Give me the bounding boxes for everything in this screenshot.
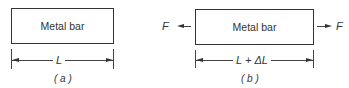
dimension-arrow-right-b-icon	[306, 58, 313, 62]
caption-a: ( a )	[54, 73, 72, 84]
force-arrow-right-icon	[325, 24, 332, 28]
dimension-label-a: L	[53, 54, 65, 66]
dimension-arrow-left-a-icon	[12, 58, 19, 62]
force-left-label: F	[162, 20, 169, 32]
dimension-label-b: L + ΔL	[233, 54, 271, 66]
dimension-arrow-right-a-icon	[106, 58, 113, 62]
metal-bar-a-label: Metal bar	[41, 20, 85, 32]
dimension-tick-right-a	[113, 49, 114, 69]
caption-b: ( b )	[241, 73, 259, 84]
metal-bar-a: Metal bar	[11, 8, 114, 44]
dimension-arrow-left-b-icon	[196, 58, 203, 62]
force-arrow-left-icon	[177, 24, 184, 28]
dimension-tick-right-b	[313, 50, 314, 68]
force-right-label: F	[336, 20, 343, 32]
metal-bar-b: Metal bar	[195, 9, 314, 45]
metal-bar-b-label: Metal bar	[233, 21, 277, 33]
